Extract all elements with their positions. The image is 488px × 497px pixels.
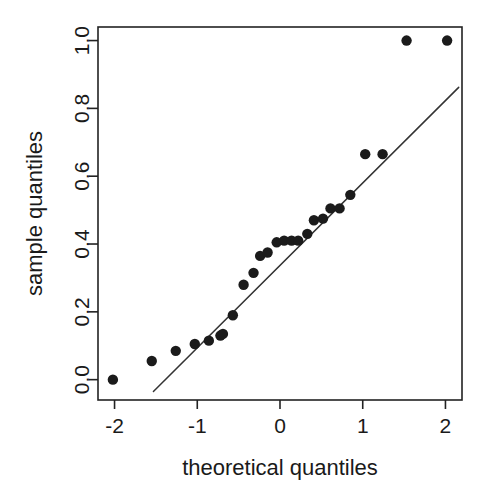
x-tick-label: 1: [357, 414, 369, 437]
data-point: [218, 329, 228, 339]
y-axis-title: sample quantiles: [22, 131, 47, 296]
x-tick-label: 0: [274, 414, 286, 437]
data-point: [377, 149, 387, 159]
y-tick-label: 0.8: [71, 94, 94, 123]
data-point: [318, 213, 328, 223]
x-axis-title: theoretical quantiles: [182, 455, 378, 480]
data-point: [334, 203, 344, 213]
x-tick-label: -1: [188, 414, 207, 437]
data-point: [401, 35, 411, 45]
data-point: [228, 310, 238, 320]
data-point: [171, 346, 181, 356]
data-point: [293, 235, 303, 245]
data-point: [345, 190, 355, 200]
x-tick-label: -2: [105, 414, 124, 437]
y-axis: 0.00.20.40.60.81.0: [71, 26, 99, 394]
data-point: [204, 335, 214, 345]
data-point: [262, 247, 272, 257]
data-series: [108, 35, 453, 384]
data-point: [108, 374, 118, 384]
y-tick-label: 0.0: [71, 365, 94, 394]
x-tick-label: 2: [440, 414, 452, 437]
data-point: [302, 229, 312, 239]
data-point: [309, 215, 319, 225]
y-tick-label: 0.4: [71, 229, 94, 259]
qq-plot-canvas: -2-10120.00.20.40.60.81.0theoretical qua…: [0, 0, 488, 497]
data-point: [248, 268, 258, 278]
data-point: [147, 356, 157, 366]
plot-frame: [98, 27, 462, 400]
data-point: [325, 203, 335, 213]
data-point: [190, 339, 200, 349]
y-tick-label: 0.2: [71, 297, 94, 326]
qq-plot-figure: -2-10120.00.20.40.60.81.0theoretical qua…: [0, 0, 488, 497]
y-tick-label: 0.6: [71, 162, 94, 191]
x-axis: -2-1012: [105, 400, 451, 437]
data-point: [442, 35, 452, 45]
y-tick-label: 1.0: [71, 26, 94, 55]
data-point: [238, 280, 248, 290]
data-point: [360, 149, 370, 159]
